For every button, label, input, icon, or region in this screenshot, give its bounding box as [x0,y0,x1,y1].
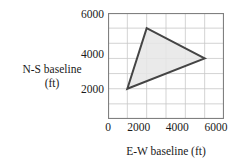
x-tick-labels: 0 2000 4000 6000 [80,122,240,140]
y-tick-label-2000: 2000 [70,84,104,96]
chart-figure: N-S baseline (ft) 6000 4000 2000 [0,0,241,167]
y-tick-label-6000: 6000 [70,9,104,21]
y-tick-label-4000: 4000 [70,49,104,61]
x-axis-title: E-W baseline (ft) [96,145,236,157]
y-tick-labels: 6000 4000 2000 [68,0,104,167]
x-tick-label-6000: 6000 [196,122,236,134]
x-tick-label-2000: 2000 [119,122,159,134]
x-tick-label-4000: 4000 [157,122,197,134]
plot-area [108,13,224,119]
plot-svg [108,13,224,119]
